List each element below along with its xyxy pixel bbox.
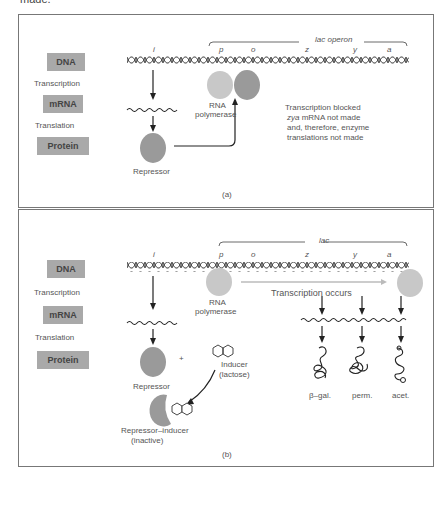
caption-a: (a) <box>222 190 232 199</box>
note-zya: zya <box>287 113 299 122</box>
protein-label-b: Protein <box>37 351 89 369</box>
dna-label: DNA <box>47 53 85 71</box>
panel-a-repressed: lac operon i p o z y a DNA Transcription… <box>18 14 434 208</box>
rna-polymerase-label-b: RNA <box>209 298 226 307</box>
transcription-label: Transcription <box>34 79 80 88</box>
protein-label: Protein <box>37 137 89 155</box>
gene-i-b: i <box>153 250 155 259</box>
mrna-label: mRNA <box>43 95 83 113</box>
beta-gal-protein <box>314 347 326 378</box>
note-line4: translations not made <box>287 133 364 142</box>
dna-label-b: DNA <box>47 260 85 278</box>
inducer-shape <box>213 345 233 357</box>
rna-polymerase-label-2: polymerase <box>195 110 236 119</box>
enzyme-perm: perm. <box>352 391 372 400</box>
mrna-strand-a <box>127 109 177 112</box>
rna-polymerase-end <box>397 269 423 297</box>
inducer-label-2: (lactose) <box>219 370 250 379</box>
gene-o: o <box>251 45 255 54</box>
gene-o-b: o <box>251 250 255 259</box>
translation-label: Translation <box>35 121 74 130</box>
enzyme-acet: acet. <box>392 391 409 400</box>
gene-y: y <box>353 45 357 54</box>
lac-bracket <box>219 242 407 246</box>
repressor-inducer-shape <box>149 394 171 426</box>
lac-operon-label: lac operon <box>315 35 352 44</box>
gene-a-b: a <box>387 250 391 259</box>
repressor-label: Repressor <box>133 167 170 176</box>
gene-y-b: y <box>353 250 357 259</box>
translation-label-b: Translation <box>35 333 74 342</box>
gene-z: z <box>305 45 309 54</box>
lac-label: lac <box>319 236 329 245</box>
panel-b-graphics <box>19 210 435 468</box>
transcription-occurs-label: Transcription occurs <box>271 288 352 298</box>
mrna-label-b: mRNA <box>43 306 83 324</box>
plus-sign: + <box>179 354 184 363</box>
complex-label: Repressor–inducer <box>121 426 189 435</box>
permease-protein <box>350 347 368 373</box>
transcription-label-b: Transcription <box>34 288 80 297</box>
mrna-strand-b <box>301 319 406 322</box>
gene-i: i <box>153 45 155 54</box>
note-line2-rest: mRNA not made <box>299 113 360 122</box>
gene-z-b: z <box>305 250 309 259</box>
repressor-shape <box>140 133 166 163</box>
gene-a: a <box>387 45 391 54</box>
dna-helix-a <box>127 56 409 66</box>
gene-p: p <box>219 45 223 54</box>
note-line3: and, therefore, enzyme <box>287 123 369 132</box>
rna-polymerase-label-b2: polymerase <box>195 307 236 316</box>
preceding-text: made. <box>20 0 51 5</box>
gene-p-b: p <box>219 250 223 259</box>
rna-polymerase-shape <box>207 71 233 99</box>
caption-b: (b) <box>222 450 232 459</box>
repressor-b-shape <box>140 347 166 377</box>
rna-polymerase-label: RNA <box>209 101 226 110</box>
rna-polymerase-start <box>206 268 232 296</box>
note-line1: Transcription blocked <box>285 103 361 112</box>
dna-helix-b <box>127 262 409 272</box>
acetylase-protein <box>395 348 404 380</box>
note-line2: zya mRNA not made <box>287 113 360 122</box>
bound-repressor-shape <box>234 70 260 100</box>
panel-b-induced: lac i p o z y a DNA Transcription mRNA T… <box>18 209 434 467</box>
enzyme-beta-gal: β–gal. <box>309 391 331 400</box>
repressor-label-b: Repressor <box>133 382 170 391</box>
complex-label-2: (inactive) <box>131 436 163 445</box>
inducer-label: Inducer <box>221 360 248 369</box>
